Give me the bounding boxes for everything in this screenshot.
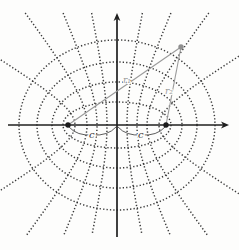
c-right-label: c	[138, 129, 144, 140]
coordinate-axes-group	[8, 13, 229, 237]
confocal-hyperbola-branch	[147, 13, 209, 235]
r2-label: r₂	[165, 86, 173, 96]
confocal-hyperbola-branch	[159, 13, 239, 235]
confocal-hyperbola-branch	[92, 13, 107, 235]
confocal-hyperbola-branch	[127, 13, 142, 235]
c-left-label: c	[89, 129, 95, 140]
confocal-hyperbolas-group	[0, 13, 239, 235]
right-focus-dot	[163, 122, 168, 127]
r1-label: r₁	[123, 75, 131, 85]
left-focus-dot	[65, 122, 70, 127]
confocal-conics-diagram: r₁ r₂ c c	[0, 0, 239, 250]
point-on-ellipse-dot	[178, 44, 183, 49]
elliptic-coordinates-figure: r₁ r₂ c c	[0, 0, 239, 250]
confocal-hyperbola-branch	[25, 13, 87, 235]
